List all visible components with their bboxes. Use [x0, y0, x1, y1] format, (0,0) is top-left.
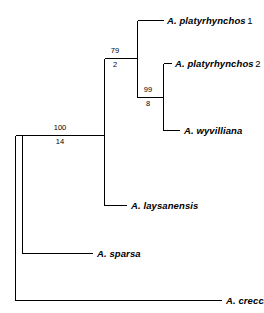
- node-100-bootstrap: 100: [50, 124, 70, 132]
- node-100-decay: 14: [50, 138, 70, 146]
- tip-suffix-platyrhynchos-1: 1: [246, 15, 253, 26]
- tip-label-wyvilliana: A. wyvilliana: [184, 126, 242, 136]
- tip-name-laysanensis: A. laysanensis: [131, 200, 198, 211]
- tip-name-platyrhynchos-1: A. platyrhynchos: [167, 15, 246, 26]
- tip-suffix-platyrhynchos-2: 2: [254, 58, 261, 69]
- tip-label-laysanensis: A. laysanensis: [131, 201, 198, 211]
- tip-name-wyvilliana: A. wyvilliana: [184, 125, 242, 136]
- tip-name-crecca: A. crecca: [226, 295, 264, 306]
- tip-label-platyrhynchos-1: A. platyrhynchos1: [167, 16, 253, 26]
- node-99-decay: 8: [140, 100, 156, 108]
- tree-branches: [0, 0, 264, 313]
- tip-label-sparsa: A. sparsa: [97, 249, 141, 259]
- tip-label-platyrhynchos-2: A. platyrhynchos2: [175, 59, 261, 69]
- node-79-decay: 2: [107, 61, 123, 69]
- node-99-bootstrap: 99: [140, 86, 156, 94]
- tip-name-platyrhynchos-2: A. platyrhynchos: [175, 58, 254, 69]
- tip-label-crecca: A. crecca: [226, 296, 264, 306]
- tip-name-sparsa: A. sparsa: [97, 248, 141, 259]
- node-79-bootstrap: 79: [107, 47, 123, 55]
- phylogenetic-tree-figure: A. platyrhynchos1 A. platyrhynchos2 A. w…: [0, 0, 264, 313]
